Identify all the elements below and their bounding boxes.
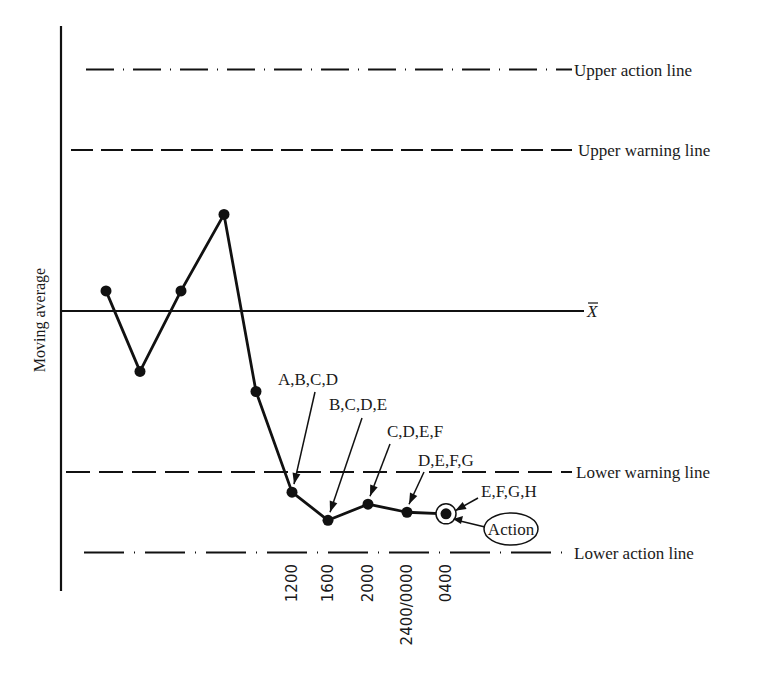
x-tick-label: 2000	[359, 564, 377, 602]
annotation-arrowhead	[455, 502, 467, 511]
annotation-arrowhead	[330, 501, 338, 513]
action-callout: Action	[453, 513, 538, 545]
data-point	[176, 285, 187, 296]
data-point	[287, 487, 298, 498]
x-tick-labels: 1200160020002400/00000400	[283, 564, 455, 645]
x-bar-label: X	[586, 302, 598, 321]
data-point	[135, 366, 146, 377]
data-point	[323, 515, 334, 526]
annotation-arrowhead	[370, 484, 378, 496]
reference-lines: Upper action lineUpper warning lineXLowe…	[62, 61, 710, 563]
data-point	[441, 508, 452, 519]
point-annotation: E,F,G,H	[481, 482, 537, 501]
point-annotation: D,E,F,G	[418, 451, 474, 470]
control-chart: Moving average Upper action lineUpper wa…	[0, 0, 769, 683]
data-point	[101, 285, 112, 296]
upper-action-line-label: Upper action line	[574, 61, 692, 80]
annotation-arrowhead	[409, 493, 417, 505]
annotation-arrow	[294, 392, 315, 484]
moving-average-series	[101, 209, 457, 526]
y-axis-label: Moving average	[31, 268, 49, 372]
lower-warning-line-label: Lower warning line	[576, 463, 710, 482]
point-annotation: A,B,C,D	[278, 370, 338, 389]
upper-warning-line-label: Upper warning line	[578, 141, 710, 160]
point-annotation: B,C,D,E	[329, 395, 387, 414]
data-point	[219, 209, 230, 220]
x-tick-label: 0400	[437, 564, 455, 602]
x-tick-label: 1200	[283, 564, 301, 602]
annotations: A,B,C,DB,C,D,EC,D,E,FD,E,F,GE,F,G,H	[278, 370, 537, 512]
action-callout-label: Action	[488, 520, 535, 539]
x-tick-label: 1600	[319, 564, 337, 602]
annotation-arrow	[330, 418, 362, 512]
series-line	[106, 214, 446, 520]
data-point	[251, 386, 262, 397]
point-annotation: C,D,E,F	[387, 422, 443, 441]
lower-action-line-label: Lower action line	[574, 544, 694, 563]
x-tick-label: 2400/0000	[398, 564, 416, 645]
data-point	[363, 499, 374, 510]
data-point	[402, 507, 413, 518]
